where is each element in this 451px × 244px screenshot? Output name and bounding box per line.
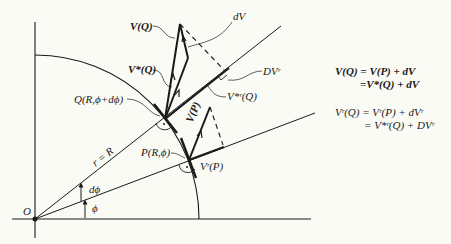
label-Vstar-Q: V*(Q) (128, 64, 156, 75)
equation-2-line-1: Vʳ(Q) = Vʳ(P) + dVʳ (335, 106, 423, 119)
leader-DVr (228, 71, 262, 80)
label-origin: O (23, 206, 31, 217)
diagram-canvas: V(Q) dV V*(Q) DVʳ Q(R,ϕ+dϕ) V*ʳ(Q) V(P) … (0, 0, 451, 244)
label-DVr: DVʳ (263, 66, 280, 77)
ray-phi-dphi (35, 26, 281, 219)
leader-VstarrQ (208, 86, 226, 97)
equation-2-line-2: = V*ʳ(Q) + DVʳ (364, 119, 434, 132)
label-Q-point: Q(R,ϕ+dϕ) (74, 94, 123, 105)
dashed-proj-P (210, 107, 223, 145)
vector-dV (180, 24, 188, 58)
vector-V-Q (165, 24, 180, 119)
label-Vr-P: Vʳ(P) (200, 161, 223, 172)
label-Vstar-r-Q: V*ʳ(Q) (227, 91, 257, 102)
label-phi: ϕ (92, 203, 98, 214)
leader-dV (188, 22, 232, 47)
label-V-Q: V(Q) (130, 21, 153, 32)
leader-P (171, 153, 185, 158)
label-dV: dV (233, 11, 245, 22)
equation-1-line-1: V(Q) = V(P) + dV (335, 65, 415, 78)
label-P-point: P(R,ϕ) (141, 147, 170, 158)
leader-VQ (153, 26, 175, 38)
equation-1-line-2: =V*(Q) + dV (360, 78, 419, 91)
label-dphi: dϕ (89, 184, 100, 195)
